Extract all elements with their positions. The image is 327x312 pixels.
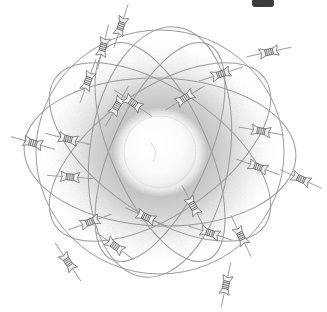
atom-illustration-figure (0, 0, 327, 312)
nucleus-core (124, 116, 196, 188)
nucleus-group (124, 116, 196, 188)
electron-marker (216, 261, 236, 308)
electron-marker (245, 42, 292, 62)
electron-marker (51, 240, 85, 284)
atom-diagram-canvas (0, 0, 327, 312)
electron-marker (278, 165, 324, 193)
